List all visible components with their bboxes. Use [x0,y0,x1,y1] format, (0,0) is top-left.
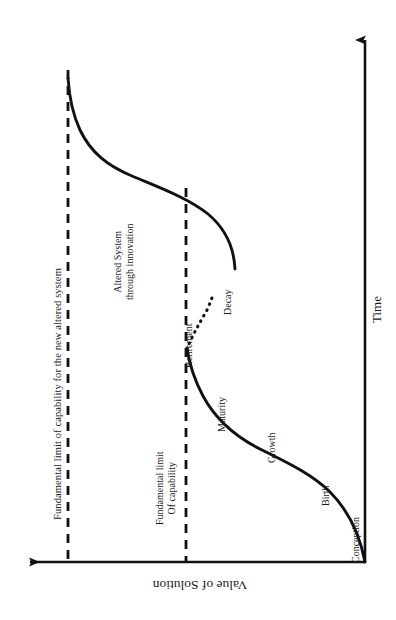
label-altered-system-line2: through innovation [124,224,136,300]
diagram-canvas: Fundamental limit of capability for the … [0,0,396,620]
label-stage-maturity: Maturity [216,397,228,432]
label-stage-retirement: Retirement [183,324,195,368]
axis-label-time: Time [369,296,384,323]
label-altered-system-line1: Altered System [112,224,124,300]
label-stage-growth: Growth [266,432,278,463]
label-stage-decay: Decay [222,289,234,315]
label-fundamental-limit-new-system: Fundamental limit of capability for the … [52,268,64,520]
label-stage-conception: Conception [350,517,362,563]
label-fundamental-limit-capability: Fundamental limit Of capability [154,451,178,525]
label-fundamental-limit-capability-line1: Fundamental limit [154,451,166,525]
label-altered-system-through-innovation: Altered System through innovation [112,224,136,300]
label-fundamental-limit-capability-line2: Of capability [166,451,178,525]
curve-altered-system [68,78,235,269]
label-stage-birth: Birth [320,485,332,506]
axis-label-value-of-solution: Value of Solution [130,577,270,593]
